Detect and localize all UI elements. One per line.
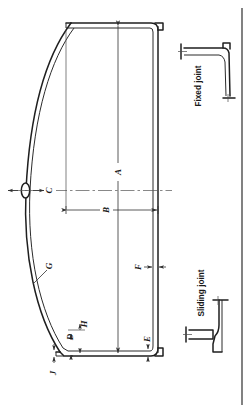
- dimension-J: J: [48, 344, 58, 376]
- dimension-label-H: H: [79, 320, 89, 329]
- fixed-joint-label: Fixed joint: [194, 65, 203, 106]
- dimension-F: F: [133, 264, 166, 271]
- dimension-label-E: E: [142, 336, 152, 343]
- drawing-canvas: A B C: [0, 0, 248, 413]
- fixed-joint-detail: Fixed joint: [178, 43, 235, 106]
- dimension-B: B: [66, 202, 158, 218]
- sliding-joint-label: Sliding joint: [197, 269, 206, 316]
- dimension-label-C: C: [44, 187, 54, 194]
- dimension-E: E: [142, 336, 152, 362]
- main-section-view: A B C: [8, 23, 172, 376]
- dimension-label-D: D: [65, 333, 75, 341]
- dimension-label-J: J: [48, 370, 58, 376]
- sliding-joint-detail: Sliding joint: [183, 269, 228, 352]
- dimension-label-G: G: [44, 262, 54, 269]
- dimension-A: A: [112, 26, 125, 353]
- dimension-label-B: B: [101, 207, 111, 214]
- dimension-label-A: A: [113, 169, 123, 176]
- dimension-G: G: [33, 262, 54, 284]
- dimension-label-F: F: [133, 264, 143, 271]
